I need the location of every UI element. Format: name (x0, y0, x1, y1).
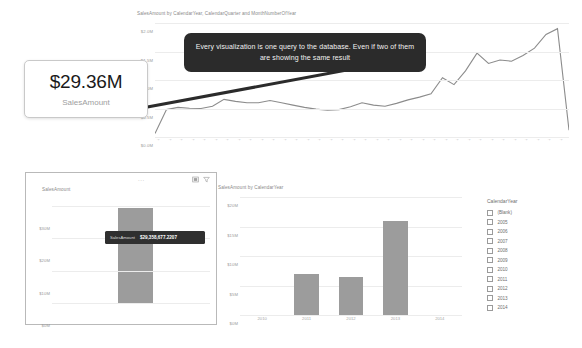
slicer-item-2007[interactable]: 2007 (487, 237, 549, 247)
x-axis-tick: 2012 1 2 (306, 139, 316, 141)
slicer-item-label: 2005 (497, 220, 507, 225)
checkbox-icon[interactable] (487, 305, 493, 311)
slicer-item-label: 2011 (497, 277, 507, 282)
slicer-item-blank[interactable]: (Blank) (487, 208, 549, 218)
slicer-item-2012[interactable]: 2012 (487, 284, 549, 294)
x-axis-tick: 2013 3 8 (513, 139, 523, 141)
grid-line (52, 206, 210, 207)
slicer-item-label: (Blank) (497, 210, 512, 215)
x-axis-tick: 2013 1 3 (455, 139, 465, 141)
slicer-item-2006[interactable]: 2006 (487, 227, 549, 237)
checkbox-icon[interactable] (487, 295, 493, 301)
slicer-item-label: 2012 (497, 286, 507, 291)
x-axis-tick: 2011 4 11 (271, 139, 281, 141)
checkbox-icon[interactable] (487, 238, 493, 244)
top-chart-title: SalesAmount by CalendarYear, CalendarQua… (137, 11, 296, 16)
slicer-item-label: 2013 (497, 296, 507, 301)
slicer-item-2010[interactable]: 2010 (487, 265, 549, 275)
x-axis-tick: 2012 (346, 316, 355, 321)
checkbox-icon[interactable] (487, 267, 493, 273)
slicer-item-2005[interactable]: 2005 (487, 218, 549, 228)
kpi-value: $29.36M (50, 72, 123, 91)
x-axis-tick: 2011 2 5 (202, 139, 212, 141)
checkbox-icon[interactable] (487, 219, 493, 225)
left-panel-bar-tooltip: SalesAmount $29,358,677.2207 (105, 231, 205, 244)
grid-line (240, 227, 462, 228)
x-axis-tick: 2012 3 8 (375, 139, 385, 141)
bar-2011[interactable] (294, 274, 319, 315)
x-axis-tick: 2011 3 9 (248, 139, 258, 141)
slicer-item-2014[interactable]: 2014 (487, 303, 549, 313)
y-axis-tick: $30M (39, 225, 50, 230)
x-axis-tick: 2012 2 5 (340, 139, 350, 141)
checkbox-icon[interactable] (487, 286, 493, 292)
left-visual-panel[interactable]: ... SalesAmount $0M$10M$20M$30M (25, 172, 217, 325)
slicer-item-2013[interactable]: 2013 (487, 294, 549, 304)
y-axis-tick: $15M (227, 232, 238, 237)
right-chart-title: SalesAmount by CalendarYear (218, 185, 283, 190)
x-axis-tick: 2011 4 10 (260, 139, 271, 141)
y-axis-tick: $0M (42, 323, 50, 328)
annotation-callout: Every visualization is one query to the … (184, 33, 426, 72)
slicer-item-2011[interactable]: 2011 (487, 275, 549, 285)
right-chart-y-axis: $0M$5M$10M$15M$20M (216, 193, 240, 319)
checkbox-icon[interactable] (487, 210, 493, 216)
slicer-item-label: 2008 (497, 248, 507, 253)
x-axis-tick: 2011 3 8 (237, 139, 247, 141)
bar-2013[interactable] (383, 221, 408, 315)
x-axis-tick: 2013 4 10 (536, 139, 547, 141)
left-panel-toolbar (192, 176, 210, 184)
checkbox-icon[interactable] (487, 248, 493, 254)
x-axis-tick: 2011 1 3 (179, 139, 189, 141)
x-axis-tick: 2012 4 10 (398, 139, 409, 141)
x-axis-tick: 2011 1 1 (156, 139, 166, 141)
x-axis-tick: 2012 4 11 (409, 139, 420, 141)
x-axis-tick: 2013 2 6 (490, 139, 500, 141)
x-axis-tick: 2012 3 7 (363, 139, 373, 141)
y-axis-tick: $20M (39, 258, 50, 263)
x-axis-tick: 2012 2 6 (352, 139, 362, 141)
y-axis-tick: $10M (39, 290, 50, 295)
more-options-icon[interactable]: ... (138, 176, 145, 182)
x-axis-tick: 2014 (435, 316, 444, 321)
grid-line (52, 303, 210, 304)
x-axis-tick: 2013 4 12 (559, 139, 570, 141)
focus-mode-icon[interactable] (192, 176, 199, 184)
x-axis-tick: 2013 3 9 (524, 139, 534, 141)
x-axis-tick: 2010 (258, 316, 267, 321)
annotation-callout-text: Every visualization is one query to the … (184, 42, 426, 62)
slicer-title: CalendarYear (487, 198, 549, 204)
x-axis-tick: 2011 1 2 (168, 139, 178, 141)
slicer-item-label: 2007 (497, 239, 507, 244)
right-chart-plot-area (240, 197, 462, 315)
sales-by-year-bar-chart[interactable]: SalesAmount by CalendarYear $0M$5M$10M$1… (216, 185, 466, 335)
tooltip-measure-value: $29,358,677.2207 (140, 235, 177, 240)
x-axis-tick: 2012 2 4 (329, 139, 339, 141)
sales-amount-kpi-card[interactable]: $29.36M SalesAmount (24, 60, 148, 118)
top-chart-x-axis: 2011 1 12011 1 22011 1 32011 2 42011 2 5… (155, 139, 569, 161)
x-axis-tick: 2012 1 1 (294, 139, 304, 141)
filter-icon[interactable] (203, 176, 210, 184)
checkbox-icon[interactable] (487, 257, 493, 263)
bar-2012[interactable] (339, 277, 364, 315)
checkbox-icon[interactable] (487, 229, 493, 235)
x-axis-tick: 2012 3 9 (386, 139, 396, 141)
x-axis-tick: 2013 1 2 (444, 139, 454, 141)
y-axis-tick: $5M (230, 291, 238, 296)
y-axis-tick: $10M (227, 262, 238, 267)
x-axis-tick: 2011 2 4 (191, 139, 201, 141)
slicer-item-2009[interactable]: 2009 (487, 256, 549, 266)
x-axis-tick: 2012 1 3 (317, 139, 327, 141)
checkbox-icon[interactable] (487, 276, 493, 282)
y-axis-tick: $0.0M (141, 143, 153, 148)
left-panel-title: SalesAmount (42, 187, 70, 192)
calendar-year-slicer[interactable]: CalendarYear (Blank)20052006200720082009… (487, 198, 549, 313)
tooltip-measure-label: SalesAmount (110, 235, 135, 240)
grid-line (240, 256, 462, 257)
left-panel-y-axis: $0M$10M$20M$30M (28, 195, 52, 307)
x-axis-tick: 2013 (391, 316, 400, 321)
left-panel-bar[interactable] (118, 208, 153, 303)
x-axis-tick: 2011 (302, 316, 311, 321)
slicer-item-2008[interactable]: 2008 (487, 246, 549, 256)
slicer-item-label: 2006 (497, 229, 507, 234)
